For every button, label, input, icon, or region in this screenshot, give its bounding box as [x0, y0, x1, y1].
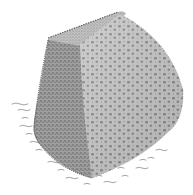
illustration [0, 0, 193, 195]
sponge-block-drawing [0, 0, 193, 195]
